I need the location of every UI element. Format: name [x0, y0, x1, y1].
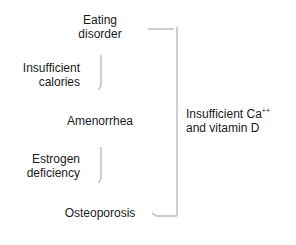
edge-label-insufficient-ca-vitamin-d: Insufficient Ca++ and vitamin D — [186, 107, 270, 135]
node-eating-disorder-line2: disorder — [68, 27, 132, 41]
node-eating-disorder: Eating disorder — [68, 13, 132, 41]
node-amenorrhea-label: Amenorrhea — [58, 114, 142, 128]
insufficient-ca-line2: and vitamin D — [186, 121, 270, 135]
estrogen-deficiency-line2: deficiency — [10, 166, 80, 180]
calcium-charge-superscript: ++ — [262, 107, 270, 114]
insufficient-calories-line2: calories — [10, 75, 80, 89]
edge-label-insufficient-calories: Insufficient calories — [10, 61, 80, 89]
estrogen-deficiency-line1: Estrogen — [10, 152, 80, 166]
edge-label-estrogen-deficiency: Estrogen deficiency — [10, 152, 80, 180]
bracket-arrow-eating-to-osteoporosis — [148, 27, 177, 216]
arrow-amenorrhea-to-osteoporosis — [99, 147, 102, 183]
node-osteoporosis: Osteoporosis — [56, 206, 144, 220]
node-amenorrhea: Amenorrhea — [58, 114, 142, 128]
insufficient-ca-text: Insufficient Ca — [186, 107, 262, 121]
node-eating-disorder-line1: Eating — [68, 13, 132, 27]
insufficient-ca-line1: Insufficient Ca++ — [186, 107, 270, 121]
insufficient-calories-line1: Insufficient — [10, 61, 80, 75]
arrow-eating-to-amenorrhea — [99, 55, 102, 90]
node-osteoporosis-label: Osteoporosis — [56, 206, 144, 220]
